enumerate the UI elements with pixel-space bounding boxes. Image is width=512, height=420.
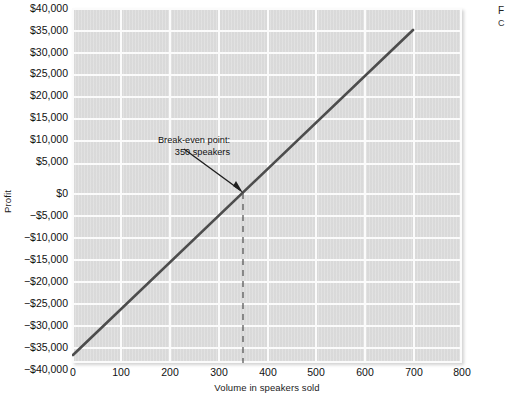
break-even-annotation-graphics [72, 8, 462, 363]
y-tick-label: −$25,000 [6, 298, 68, 309]
x-axis-title: Volume in speakers sold [72, 382, 462, 393]
chart-figure: Profit $40,000 $35,000 $30,000 $25,000 $… [0, 0, 512, 420]
y-tick-label: −$10,000 [6, 232, 68, 243]
y-tick-label: $30,000 [6, 47, 68, 58]
annotation-line-1: Break-even point: [128, 135, 230, 147]
y-tick-label: $0 [6, 188, 68, 199]
y-tick-label: $5,000 [6, 156, 68, 167]
edge-caption-line-1: F [498, 4, 512, 17]
y-tick-label: $10,000 [6, 134, 68, 145]
y-tick-label: −$15,000 [6, 254, 68, 265]
y-tick-label: −$35,000 [6, 342, 68, 353]
annotation-line-2: 350 speakers [128, 147, 230, 159]
x-tick-label: 800 [432, 366, 492, 379]
y-tick-label: $35,000 [6, 25, 68, 36]
edge-caption-line-2: C [498, 17, 512, 30]
edge-caption: F C [498, 4, 512, 30]
y-tick-label: −$5,000 [6, 210, 68, 221]
break-even-arrow-head [233, 181, 243, 193]
y-tick-label: $25,000 [6, 68, 68, 79]
y-tick-label: $15,000 [6, 112, 68, 123]
y-tick-label: $20,000 [6, 90, 68, 101]
y-tick-label: −$20,000 [6, 276, 68, 287]
break-even-annotation-label: Break-even point: 350 speakers [128, 135, 230, 158]
y-tick-label: $40,000 [6, 3, 68, 14]
y-tick-label: −$30,000 [6, 320, 68, 331]
plot-area [72, 8, 462, 363]
x-axis-tick-labels: 0 100 200 300 400 500 600 700 800 [72, 366, 462, 382]
y-axis-tick-labels: $40,000 $35,000 $30,000 $25,000 $20,000 … [6, 0, 68, 380]
